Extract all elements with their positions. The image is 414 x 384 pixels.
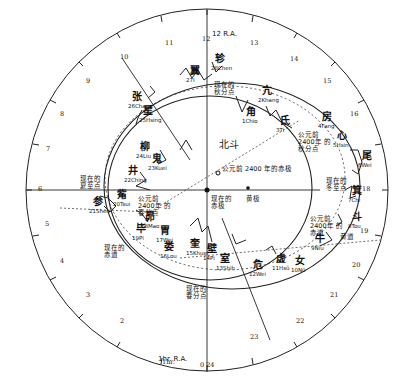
mansion-4-name: 4Fang [318,124,335,130]
mansion-6-glyph: 尾 [362,151,372,162]
constellation-zhang [148,86,155,98]
ra-hour-11: 11 [165,40,173,47]
mansion-20-glyph: 觜 [117,190,127,201]
mansion-12-name: 12Wei [249,272,266,278]
mansion-2-glyph: 亢 [262,86,272,97]
mansion-15-name: 15Khuei [186,251,209,257]
mansion-10-glyph: 女 [295,256,305,267]
mansion-21-name: 21Shen [89,209,110,215]
autumn-equinox-2400bc-label: 公元前 2400年 的秋分点 [298,132,334,152]
mansion-3-name: 3Ti [276,128,284,134]
mansion-26-name: 26Chang [128,104,153,110]
mansion-28-glyph: 轸 [215,54,225,65]
mansion-21-glyph: 参 [93,197,103,208]
mansion-9-name: 9Niu [311,246,324,252]
mansion-24-name: 24Liu [136,154,151,160]
ra-hour-0: 0 24 [200,362,214,369]
mansion-17-name: 17Wei [156,238,173,244]
ra-hour-15: 15 [323,78,331,85]
mansion-27-glyph: 翼 [190,66,200,77]
ra-hour-3: 3 [86,292,90,299]
mansion-13-glyph: 室 [220,254,230,265]
ecliptic-pole-dot [246,186,250,190]
mansion-14-name: 14Pi [203,256,215,262]
mansion-27-name: 27I [186,78,195,84]
mansion-22-glyph: 井 [128,166,138,177]
ra-hour-19: 20 [352,262,360,269]
ra-hour-9: 9 [86,78,90,85]
ra-hour-14: 14 [290,56,298,63]
pole-2400bc-label: 公元前 2400 年的赤极 [222,166,292,173]
mansion-8-name: 8Tou [348,224,361,230]
ra-hour-21: 22 [296,318,304,325]
mansion-26-glyph: 张 [132,92,142,103]
mansion-15-glyph: 奎 [190,239,200,250]
mansion-25-name: 25Hsing [139,118,162,124]
ra-hour-17: 18 [362,186,370,193]
autumn-equinox-now-label: 现在的 秋分点 [214,82,244,96]
mansion-6-name: 6Wei [358,163,372,169]
mansion-19-glyph: 毕 [136,224,146,235]
mansion-28-name: 28Chen [211,66,232,72]
constellation-wei2 [232,234,246,244]
ecliptic-pole-label: 黄极 [246,196,260,203]
mansion-3-glyph: 氐 [280,116,290,127]
summer-solstice-now-label: 现在的 夏至点 [80,176,110,190]
ra-hour-5: 5 [45,221,49,228]
mansion-20-name: 20Tsui [113,202,130,208]
north-dipper-label: 北斗 [219,140,239,151]
mansion-22-name: 22Ching [124,178,147,184]
mansion-13-name: 13Shih [216,266,235,272]
mansion-23-name: 23Kuei [148,166,167,172]
spring-equinox-now-label: 现在的 春分点 [186,286,216,300]
mansion-5-name: 5Hsin [333,143,349,149]
mansion-5-glyph: 心 [337,131,347,142]
mansion-11-glyph: 虚 [276,254,286,265]
ra-hour-1: 1hr. [162,359,175,366]
ra-hour-2: 2 [120,318,124,325]
mansion-4-glyph: 房 [322,112,332,123]
mansion-9-glyph: 牛 [315,234,325,245]
ra-hour-7: 7 [46,146,50,153]
ra-hour-20: 21 [330,292,338,299]
ra-hour-13: 13 [250,40,258,47]
spring-equinox-2400bc-label: 公元前 2400年 的春分点 [138,196,172,216]
mansion-1-name: 1Chio [242,119,258,125]
mansion-23-glyph: 鬼 [152,154,162,165]
mansion-18-glyph: 昴 [145,212,155,223]
ra-hour-18: 19 [360,228,368,235]
mansion-10-name: 10Nü [291,268,306,274]
declination-scale-lower [222,218,270,340]
ra-hour-4: 4 [60,258,64,265]
ra-hour-12: 12 [202,36,210,43]
mansion-7-name: 7Chi [348,198,360,204]
mansion-24-glyph: 柳 [140,142,150,153]
ra-hour-10: 10 [120,54,128,61]
mansion-7-glyph: 箕 [352,186,362,197]
mansion-11-name: 11Hsü [272,266,290,272]
pole-now-label: 现在的 赤极 [211,196,241,210]
constellation-nu [266,246,276,254]
ra-hour-8: 8 [60,111,64,118]
equator-now-label: 现在的 赤道 [104,245,134,259]
mansion-17-glyph: 胃 [160,226,170,237]
ra-hour-22: 23 [250,334,258,341]
ra-hour-16: 16 [350,111,358,118]
mansion-1-glyph: 角 [246,107,256,118]
mansion-2-name: 2Khang [258,98,279,104]
ecliptic-label: 黄道 [340,234,354,241]
mansion-16-name: 16Lou [160,254,177,260]
ra-hour-6: 6 [38,186,42,193]
mansion-8-glyph: 斗 [352,212,362,223]
pole-2400bc-dot [216,171,220,175]
ra-label-top: 12 R.A. [212,31,237,38]
current-pole-dot [205,188,210,193]
mansion-19-name: 19Pi [132,236,144,242]
mansion-12-glyph: 危 [253,260,263,271]
